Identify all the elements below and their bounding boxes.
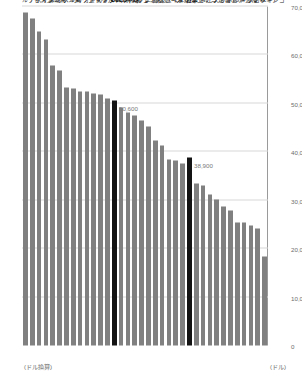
- bar: [214, 199, 219, 345]
- bar-row: [132, 6, 137, 345]
- axis-tick-label: 50,000: [291, 100, 302, 107]
- axis-tick-label: 20,000: [291, 245, 302, 252]
- bar: [50, 65, 55, 345]
- bar-row: [194, 6, 199, 345]
- bar-row: [78, 6, 83, 345]
- bar-row: [112, 6, 117, 345]
- bar: [180, 163, 185, 345]
- data-value-label: 38,900: [194, 161, 213, 168]
- bar: [44, 39, 49, 345]
- bar: [167, 159, 172, 345]
- bar-row: [50, 6, 55, 345]
- bar-row: [139, 6, 144, 345]
- bar-row: [98, 6, 103, 345]
- bar-row: [208, 6, 213, 345]
- axis-unit-label-bottom: (ドル): [270, 361, 286, 370]
- bar: [249, 225, 254, 345]
- bar: [37, 31, 42, 345]
- bar: [201, 185, 206, 345]
- bar-row: [160, 6, 165, 345]
- bar-row: [214, 6, 219, 345]
- axis-tick-label: 70,000: [291, 3, 302, 10]
- bar-row: [71, 6, 76, 345]
- bar-row: [37, 6, 42, 345]
- bar-row: [119, 6, 124, 345]
- bar-series: ルクセンブルクアイスランドスイスアメリカデンマークオランダベルギーノルウェーオー…: [22, 6, 268, 345]
- bar-row: [242, 6, 247, 345]
- bar-row: [153, 6, 158, 345]
- bar: [194, 183, 199, 345]
- axis-tick-label: 60,000: [291, 51, 302, 58]
- bar: [139, 120, 144, 345]
- bar-row: [57, 6, 62, 345]
- axis-tick-label: 40,000: [291, 148, 302, 155]
- bar-row: [262, 6, 267, 345]
- bar-row: [255, 6, 260, 345]
- category-label: メキシコ: [261, 0, 285, 3]
- bar: [71, 88, 76, 345]
- bar: [255, 228, 260, 345]
- bar-row: [146, 6, 151, 345]
- bar: [187, 157, 192, 345]
- bar: [23, 12, 28, 345]
- plot-area: 010,00020,00030,00040,00050,00060,00070,…: [22, 6, 268, 345]
- bar: [91, 93, 96, 345]
- axis-tick-label: 10,000: [291, 294, 302, 301]
- bar: [85, 91, 90, 345]
- bar: [119, 107, 124, 345]
- bar-row: [23, 6, 28, 345]
- bar-row: [91, 6, 96, 345]
- bar: [78, 91, 83, 345]
- axis-unit-label-top: (ドル換算): [24, 361, 52, 370]
- bar: [64, 87, 69, 345]
- bar-row: [187, 6, 192, 345]
- bar-row: [228, 6, 233, 345]
- bar: [30, 18, 35, 345]
- chart-canvas: 010,00020,00030,00040,00050,00060,00070,…: [0, 0, 302, 375]
- bar-row: [235, 6, 240, 345]
- bar-row: [105, 6, 110, 345]
- bar: [228, 210, 233, 345]
- bar-row: [221, 6, 226, 345]
- bar-row: [180, 6, 185, 345]
- bar: [57, 70, 62, 345]
- bar: [221, 206, 226, 345]
- bar: [235, 222, 240, 345]
- bar: [112, 100, 117, 345]
- bar-row: [126, 6, 131, 345]
- data-value-label: 50,600: [119, 104, 138, 111]
- bar: [146, 126, 151, 345]
- axis-tick-label: 0: [291, 342, 294, 349]
- bar-row: [173, 6, 178, 345]
- bar: [160, 145, 165, 345]
- bar: [173, 161, 178, 346]
- bar: [98, 94, 103, 345]
- bar: [132, 115, 137, 345]
- bar-row: [44, 6, 49, 345]
- axis-tick-label: 30,000: [291, 197, 302, 204]
- chart-figure: 010,00020,00030,00040,00050,00060,00070,…: [0, 0, 302, 375]
- bar-row: [249, 6, 254, 345]
- bar-row: [30, 6, 35, 345]
- bar: [105, 99, 110, 346]
- bar: [262, 256, 267, 345]
- bar: [242, 222, 247, 345]
- bar-row: [167, 6, 172, 345]
- bar: [126, 112, 131, 345]
- bar-row: [64, 6, 69, 345]
- bar-row: [201, 6, 206, 345]
- bar: [153, 140, 158, 345]
- bar-row: [85, 6, 90, 345]
- bar: [208, 194, 213, 345]
